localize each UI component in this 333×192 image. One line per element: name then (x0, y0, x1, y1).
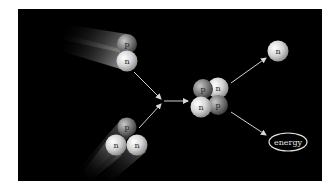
neutron-label: n (113, 141, 118, 150)
fusion-diagram: p n p n n n p (0, 0, 333, 192)
neutron: n (191, 97, 212, 118)
neutron-label: n (124, 57, 129, 66)
energy-output: energy (269, 133, 307, 151)
proton-label: p (200, 85, 205, 94)
neutron-label: n (198, 103, 203, 112)
arrow-to-neutron (231, 58, 266, 83)
proton: p (118, 118, 137, 137)
helium-nucleus: n p p n (191, 78, 229, 118)
proton: p (193, 79, 213, 99)
proton-label: p (215, 101, 220, 110)
neutron-label: n (275, 47, 280, 56)
proton-label: p (124, 40, 129, 49)
arrow-tritium-in (139, 104, 161, 128)
free-neutron: n (268, 41, 289, 62)
energy-label: energy (274, 138, 303, 147)
neutron-label: n (134, 141, 139, 150)
arrow-to-energy (231, 112, 266, 135)
proton-label: p (124, 123, 129, 132)
neutron-label: n (215, 84, 220, 93)
neutron: n (127, 135, 148, 156)
neutron: n (106, 135, 127, 156)
neutron: n (117, 51, 138, 72)
arrow-deuterium-in (134, 72, 161, 99)
